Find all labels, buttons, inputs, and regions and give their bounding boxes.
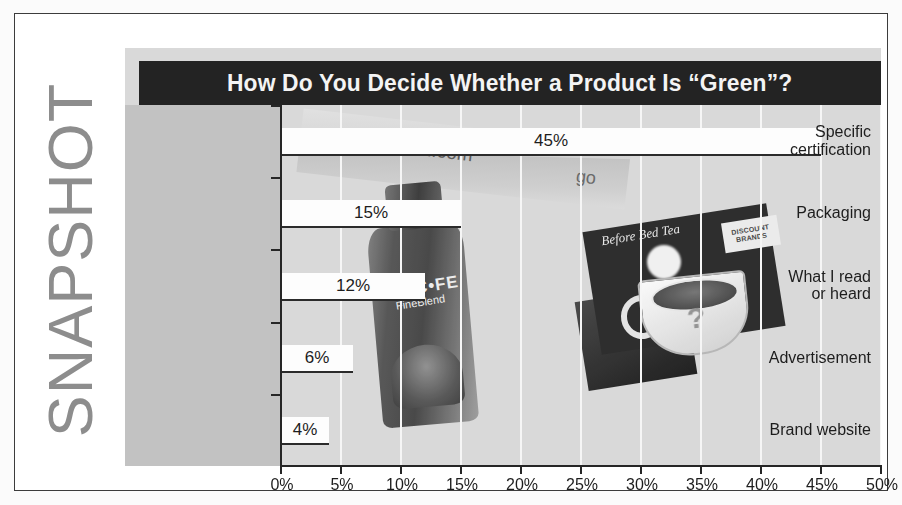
question-mark-icon: ? bbox=[685, 300, 707, 336]
x-axis-tick bbox=[580, 465, 582, 474]
category-label: Packaging bbox=[721, 204, 871, 222]
x-axis-tick-label: 15% bbox=[432, 476, 492, 494]
category-label-line: Brand website bbox=[721, 421, 871, 439]
discount-brands-text: DISCOUNT BRANDS bbox=[722, 222, 780, 246]
x-axis-tick bbox=[520, 465, 522, 474]
moon-shape bbox=[647, 245, 681, 279]
x-axis-tick bbox=[460, 465, 462, 474]
chart-title: How Do You Decide Whether a Product Is “… bbox=[227, 69, 793, 97]
x-axis-tick bbox=[760, 465, 762, 474]
category-label: Advertisement bbox=[721, 349, 871, 367]
category-label-line: Advertisement bbox=[721, 349, 871, 367]
bar: 4% bbox=[281, 417, 329, 445]
x-axis-tick bbox=[340, 465, 342, 474]
x-axis-tick bbox=[280, 465, 282, 474]
x-axis-tick-label: 10% bbox=[372, 476, 432, 494]
x-axis-tick bbox=[880, 465, 882, 474]
bar-value-label: 12% bbox=[336, 276, 370, 296]
category-label-line: Specific bbox=[721, 123, 871, 141]
x-axis-tick bbox=[640, 465, 642, 474]
x-axis-tick-label: 5% bbox=[312, 476, 372, 494]
page-frame: SNAPSHOT How Do You Decide Whether a Pro… bbox=[14, 13, 888, 491]
x-axis-tick-label: 20% bbox=[492, 476, 552, 494]
gridline bbox=[880, 105, 881, 466]
x-axis-tick bbox=[700, 465, 702, 474]
bar-value-label: 45% bbox=[534, 131, 568, 151]
gridline bbox=[460, 105, 462, 466]
gogreen-go-text: go bbox=[575, 166, 597, 189]
chart-title-bar: How Do You Decide Whether a Product Is “… bbox=[139, 61, 881, 105]
x-axis-tick-label: 45% bbox=[792, 476, 852, 494]
gridline bbox=[700, 105, 702, 466]
gridline bbox=[640, 105, 642, 466]
bar-value-label: 15% bbox=[354, 203, 388, 223]
x-axis-tick bbox=[400, 465, 402, 474]
snapshot-page: SNAPSHOT How Do You Decide Whether a Pro… bbox=[0, 0, 902, 505]
category-label: Brand website bbox=[721, 421, 871, 439]
category-label-band bbox=[125, 105, 281, 466]
category-label-line: certification bbox=[721, 141, 871, 159]
snapshot-wordmark: SNAPSHOT bbox=[34, 45, 106, 475]
x-axis-tick-label: 50% bbox=[852, 476, 902, 494]
y-axis-tick bbox=[271, 105, 281, 107]
y-axis-line bbox=[280, 105, 282, 466]
x-axis-tick-label: 0% bbox=[252, 476, 312, 494]
y-axis-tick bbox=[271, 249, 281, 251]
gridline bbox=[580, 105, 582, 466]
bar: 12% bbox=[281, 273, 425, 301]
x-axis-tick-label: 35% bbox=[672, 476, 732, 494]
postcard-collage-image: Before Bed Tea DISCOUNT BRANDS ? bbox=[581, 213, 811, 403]
bar: 6% bbox=[281, 345, 353, 373]
chart-panel: How Do You Decide Whether a Product Is “… bbox=[125, 48, 881, 466]
y-axis-tick bbox=[271, 394, 281, 396]
bar-value-label: 6% bbox=[305, 348, 330, 368]
x-axis-tick-label: 30% bbox=[612, 476, 672, 494]
bar-value-label: 4% bbox=[293, 420, 318, 440]
gridline bbox=[520, 105, 522, 466]
category-label: What I reador heard bbox=[721, 268, 871, 304]
category-label-line: Packaging bbox=[721, 204, 871, 222]
category-label: Specificcertification bbox=[721, 123, 871, 159]
x-axis-tick bbox=[820, 465, 822, 474]
category-label-line: What I read bbox=[721, 268, 871, 286]
x-axis-tick-label: 25% bbox=[552, 476, 612, 494]
y-axis-tick bbox=[271, 177, 281, 179]
bar: 15% bbox=[281, 200, 461, 228]
y-axis-tick bbox=[271, 322, 281, 324]
x-axis-tick-label: 40% bbox=[732, 476, 792, 494]
category-label-line: or heard bbox=[721, 285, 871, 303]
